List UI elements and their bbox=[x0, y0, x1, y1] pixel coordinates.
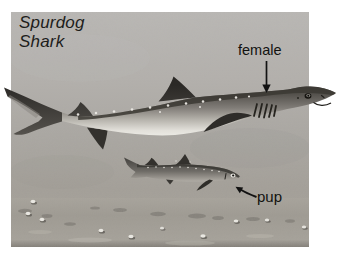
label-female: female bbox=[238, 42, 282, 58]
figure-spurdog-shark: Spurdog Shark female pup bbox=[0, 0, 339, 258]
shark-eye bbox=[305, 93, 312, 99]
figure-title-line1: Spurdog bbox=[19, 14, 85, 33]
label-pup: pup bbox=[257, 188, 282, 205]
figure-title-line2: Shark bbox=[19, 33, 85, 52]
pup-eye bbox=[231, 174, 236, 178]
figure-title: Spurdog Shark bbox=[19, 14, 85, 51]
shark-mouth bbox=[314, 103, 332, 106]
shark-spiracle bbox=[297, 97, 299, 99]
